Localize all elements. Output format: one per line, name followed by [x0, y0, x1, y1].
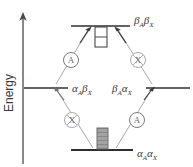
population-box-bottom-fill	[97, 128, 108, 149]
state-label-middle-right: βAαX	[111, 82, 133, 97]
population-box-bottom	[97, 128, 108, 149]
marker-upper-right[interactable]: X	[131, 53, 146, 68]
marker-upper-left[interactable]: A	[64, 53, 79, 68]
diagram-canvas: Energy	[0, 0, 193, 167]
energy-axis: Energy	[2, 12, 27, 164]
state-label-middle-left: αAβX	[72, 82, 93, 97]
state-label-top: βAβX	[133, 14, 154, 29]
state-label-middle-left-sub-2: X	[87, 89, 93, 97]
marker-upper-left-letter: A	[68, 55, 75, 65]
svg-text:αAαX: αAαX	[137, 147, 158, 162]
energy-axis-label: Energy	[2, 74, 16, 112]
svg-text:αAβX: αAβX	[72, 82, 93, 97]
population-box-top	[95, 27, 107, 47]
transition-arrowhead-bottom-to-middle-left	[54, 86, 60, 91]
marker-lower-left[interactable]: X	[65, 113, 80, 128]
state-label-bottom-sub-2: X	[152, 154, 158, 162]
energy-level-diagram: Energy	[0, 0, 193, 167]
state-label-top-sub-2: X	[148, 21, 154, 29]
marker-lower-right[interactable]: A	[130, 113, 145, 128]
marker-lower-right-letter: A	[134, 115, 141, 125]
marker-lower-left-letter: X	[69, 115, 76, 125]
transition-arrowhead-right-to-top	[115, 26, 121, 31]
state-label-bottom: αAαX	[137, 147, 158, 162]
svg-text:βAαX: βAαX	[111, 82, 133, 97]
transition-arrowhead-bottom-to-middle-right	[149, 86, 155, 91]
transition-arrowhead-left-to-top	[85, 26, 91, 31]
state-label-middle-right-sub-2: X	[127, 89, 133, 97]
marker-upper-right-letter: X	[135, 55, 142, 65]
svg-text:βAβX: βAβX	[133, 14, 154, 29]
